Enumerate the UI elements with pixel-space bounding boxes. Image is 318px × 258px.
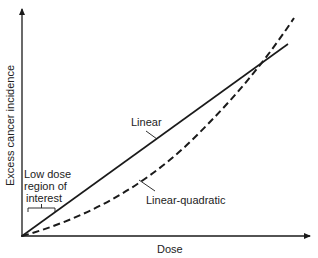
linear-quadratic-leader-line [139, 180, 155, 191]
y-axis-label: Excess cancer incidence [4, 65, 16, 186]
low-dose-label-line3: interest [24, 192, 64, 204]
low-dose-label-line1: Low dose [24, 168, 64, 180]
low-dose-label-line2: region of [24, 180, 64, 192]
linear-label: Linear [131, 116, 162, 129]
low-dose-label: Low dose region of interest [24, 168, 64, 204]
low-dose-bracket [28, 204, 55, 212]
x-axis-label: Dose [157, 243, 183, 256]
linear-curve [22, 44, 288, 236]
dose-response-diagram [0, 0, 318, 258]
linear-leader-line [146, 131, 157, 139]
linear-quadratic-label: Linear-quadratic [146, 194, 226, 207]
